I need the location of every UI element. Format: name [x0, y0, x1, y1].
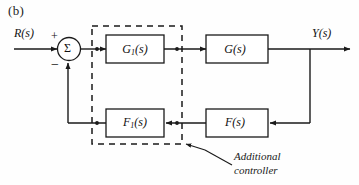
- node-dot-g1-input: [95, 47, 99, 51]
- block-label-feedback-sensor: F(s): [205, 115, 265, 130]
- block-label-suffix: (s): [233, 42, 246, 56]
- input-signal-label: R(s): [14, 26, 34, 41]
- block-label-subscript: 1: [130, 121, 134, 130]
- block-label-base: G: [122, 42, 131, 56]
- output-signal-label: Y(s): [312, 26, 331, 41]
- annotation-line-1: Additional: [234, 150, 280, 162]
- annotation-additional-controller: Additional controller: [234, 150, 280, 178]
- annotation-line-2: controller: [234, 164, 280, 178]
- summing-junction-symbol: Σ: [64, 42, 71, 54]
- annotation-leader-line: [205, 150, 232, 165]
- block-label-suffix: (s): [134, 115, 147, 129]
- block-label-forward-controller: G1(s): [105, 42, 165, 57]
- annotation-leader-arrow: [186, 144, 205, 150]
- node-dot-g1-output: [175, 47, 179, 51]
- block-label-feedback-controller: F1(s): [105, 115, 165, 130]
- block-diagram-figure: (b): [0, 0, 359, 185]
- summing-junction-minus-sign: −: [51, 58, 59, 72]
- block-label-subscript: 1: [131, 48, 135, 57]
- summing-junction-plus-sign: +: [51, 30, 58, 42]
- block-label-suffix: (s): [135, 42, 148, 56]
- diagram-canvas: [0, 0, 359, 185]
- node-dot-f1-input: [175, 121, 179, 125]
- node-dot-f1-output: [95, 121, 99, 125]
- block-label-suffix: (s): [232, 115, 245, 129]
- block-label-plant: G(s): [205, 42, 265, 57]
- block-label-base: G: [224, 42, 233, 56]
